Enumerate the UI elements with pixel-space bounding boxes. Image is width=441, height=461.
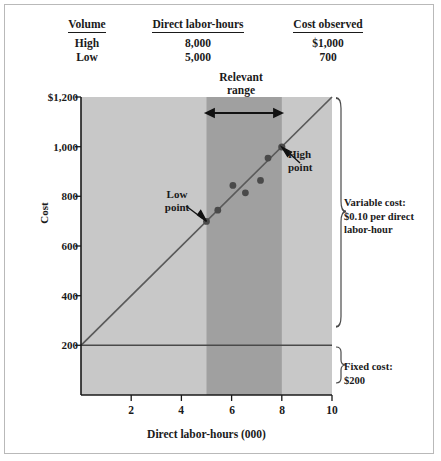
- relevant-range-label-line1: Relevant: [196, 71, 286, 84]
- fixed-cost-annotation: Fixed cost: $200: [344, 360, 440, 387]
- variable-cost-annotation: Variable cost: $0.10 per direct labor-ho…: [344, 196, 440, 237]
- x-tick-2: 2: [121, 404, 141, 416]
- relevant-range-label-line2: range: [196, 84, 286, 97]
- high-point-label-line2: point: [288, 161, 336, 174]
- x-tick-8: 8: [272, 404, 292, 416]
- variable-cost-line2: $0.10 per direct: [344, 210, 440, 224]
- variable-cost-line1: Variable cost:: [344, 196, 440, 210]
- relevant-range-band: [207, 97, 282, 395]
- high-point-label-line1: High: [288, 148, 336, 161]
- low-point-label: Low point: [152, 188, 202, 214]
- low-point-label-line2: point: [152, 201, 202, 214]
- x-tick-10: 10: [322, 404, 342, 416]
- high-point-label: High point: [288, 148, 336, 174]
- y-tick-1000: 1,000: [34, 141, 78, 153]
- relevant-range-label: Relevant range: [196, 71, 286, 97]
- y-tick-200: 200: [34, 339, 78, 351]
- x-axis-label: Direct labor-hours (000): [81, 428, 332, 440]
- variable-cost-line3: labor-hour: [344, 223, 440, 237]
- data-point: [214, 207, 221, 214]
- x-tick-4: 4: [171, 404, 191, 416]
- x-tick-6: 6: [222, 404, 242, 416]
- y-tick-400: 400: [34, 290, 78, 302]
- data-point: [242, 189, 249, 196]
- x-axis-ticks: [131, 395, 332, 401]
- data-point: [230, 182, 237, 189]
- low-point-label-line1: Low: [152, 188, 202, 201]
- data-point: [265, 155, 272, 162]
- fixed-cost-line2: $200: [344, 374, 440, 388]
- y-axis-label: Cost: [38, 183, 50, 243]
- y-tick-1200: $1,200: [34, 91, 78, 103]
- fixed-cost-line1: Fixed cost:: [344, 360, 440, 374]
- data-point: [257, 177, 264, 184]
